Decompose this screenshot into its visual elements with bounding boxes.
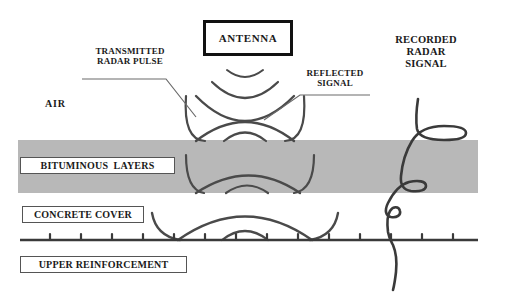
transmitted-wave-arcs <box>196 70 294 121</box>
bituminous-layers-label: BITUMINOUS LAYERS <box>20 157 175 174</box>
concrete-cover-label: CONCRETE COVER <box>22 206 144 223</box>
antenna-label: ANTENNA <box>203 20 293 56</box>
upper-reinforcement-label: UPPER REINFORCEMENT <box>20 256 187 273</box>
recorded-radar-signal-label: RECORDED RADAR SIGNAL <box>378 34 474 69</box>
reflected-signal-label: REFLECTED SIGNAL <box>297 68 373 88</box>
transmitted-leader-line <box>82 79 196 117</box>
reinforcement-reflection-arcs <box>152 213 338 240</box>
transmitted-radar-pulse-label: TRANSMITTED RADAR PULSE <box>82 46 178 66</box>
recorded-radar-trace <box>386 99 466 290</box>
air-layer-label: AIR <box>45 98 66 109</box>
upper-reinforcement-line <box>20 234 478 240</box>
gpr-diagram: ANTENNA TRANSMITTED RADAR PULSE REFLECTE… <box>0 0 507 296</box>
